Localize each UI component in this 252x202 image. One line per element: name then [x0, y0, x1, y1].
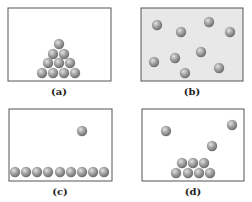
particle-ball: [199, 158, 209, 168]
particle-ball: [54, 58, 64, 68]
particle-ball: [149, 57, 159, 67]
particle-ball: [48, 49, 58, 59]
particle-ball: [59, 68, 69, 78]
particle-ball: [177, 158, 187, 168]
container-box: [141, 8, 243, 81]
particle-ball: [183, 168, 193, 178]
particle-ball: [205, 168, 215, 178]
particle-ball: [152, 20, 162, 30]
panel-c: [9, 109, 112, 181]
particle-ball: [66, 167, 76, 177]
particle-ball: [180, 68, 190, 78]
panel-label-b: (b): [172, 86, 212, 97]
panel-label-d: (d): [173, 186, 213, 197]
particle-ball: [194, 168, 204, 178]
particle-ball: [54, 39, 64, 49]
panel-b: [141, 8, 243, 81]
particle-ball: [88, 167, 98, 177]
particle-ball: [170, 53, 180, 63]
particle-ball: [207, 141, 217, 151]
particle-ball: [37, 68, 47, 78]
particle-ball: [59, 49, 69, 59]
particle-ball: [204, 17, 214, 27]
particle-ball: [99, 167, 109, 177]
particle-ball: [65, 58, 75, 68]
particle-ball: [176, 27, 186, 37]
particle-ball: [32, 167, 42, 177]
particle-ball: [10, 167, 20, 177]
panel-a: [8, 8, 111, 81]
particle-ball: [161, 126, 171, 136]
particle-ball: [70, 68, 80, 78]
particle-ball: [43, 167, 53, 177]
particle-ball: [214, 63, 224, 73]
particle-ball: [21, 167, 31, 177]
panel-label-c: (c): [40, 186, 80, 197]
particle-ball: [55, 167, 65, 177]
particle-ball: [77, 126, 87, 136]
diagram-canvas: [0, 0, 252, 202]
particle-ball: [225, 27, 235, 37]
panel-label-a: (a): [39, 86, 79, 97]
particle-ball: [188, 158, 198, 168]
particle-ball: [227, 120, 237, 130]
particle-ball: [48, 68, 58, 78]
particle-ball: [196, 47, 206, 57]
particle-ball: [43, 58, 53, 68]
panel-d: [142, 109, 244, 181]
particle-ball: [77, 167, 87, 177]
container-box: [142, 109, 244, 181]
particle-ball: [171, 168, 181, 178]
